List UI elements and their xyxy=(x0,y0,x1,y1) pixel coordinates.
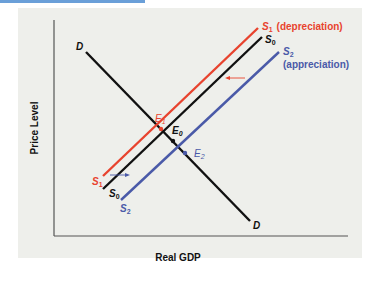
depreciation-shift-arrow xyxy=(225,76,245,80)
s2-note: (appreciation) xyxy=(283,59,349,70)
demand-label-top: D xyxy=(76,41,83,52)
supply-curve-s2 xyxy=(121,52,279,200)
s1-label-top: S1(depreciation) xyxy=(262,21,343,33)
y-axis-label: Price Level xyxy=(29,101,40,154)
s0-label-top: S0 xyxy=(265,34,276,46)
s0-label-bottom: S0 xyxy=(109,188,120,200)
demand-label-bottom: D xyxy=(253,220,260,231)
supply-curve-s0 xyxy=(103,37,262,189)
s1-label-bottom: S1 xyxy=(92,176,103,188)
supply-demand-diagram: Price Level Real GDP D D E1 E0 E2 S1(dep… xyxy=(0,0,381,286)
e1-label: E1 xyxy=(155,113,166,125)
supply-curve-s1 xyxy=(103,28,258,176)
x-axis-label: Real GDP xyxy=(155,252,201,263)
e0-label: E0 xyxy=(172,125,183,137)
equilibrium-point-e2 xyxy=(183,151,187,155)
s2-label-top: S2 xyxy=(283,46,294,58)
equilibrium-point-e0 xyxy=(171,139,175,143)
equilibrium-point-e1 xyxy=(159,127,163,131)
e2-label: E2 xyxy=(194,148,205,160)
s2-label-bottom: S2 xyxy=(120,203,131,215)
